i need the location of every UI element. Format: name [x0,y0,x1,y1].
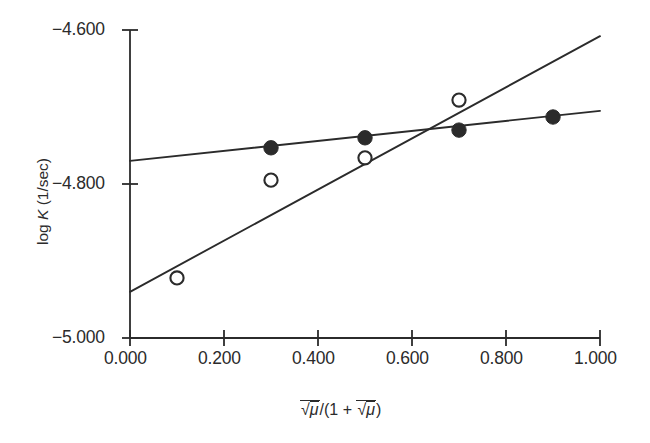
data-point-filled [546,110,560,124]
x-tick-label: 0.000 [104,348,147,369]
data-point-open [452,93,465,106]
radical-group-1: √μ [300,400,320,419]
y-tick-label: −4.800 [52,173,105,194]
x-tick-label: 0.600 [386,348,429,369]
data-point-open [358,151,371,164]
radical-icon: √ [357,401,366,418]
data-point-filled [264,141,278,155]
radical-icon: √ [301,401,310,418]
data-point-filled [358,131,372,145]
mu-bar-1: μ [310,401,319,418]
x-tick-label: 0.800 [480,348,523,369]
y-tick-label: −5.000 [52,327,105,348]
data-point-open [170,271,183,284]
y-axis-title-pre: log [34,220,51,245]
x-tick-label: 0.200 [198,348,241,369]
x-axis-title: √μ/(1 + √μ) [300,400,381,419]
x-tick-label: 0.400 [292,348,335,369]
y-axis-title: log K (1/sec) [34,158,52,245]
x-axis-title-close: ) [376,401,381,418]
mu-bar-2: μ [366,401,375,418]
x-axis-title-open: /(1 + [320,401,357,418]
data-point-open [264,174,277,187]
data-point-filled [452,123,466,137]
plot-canvas [0,0,650,443]
y-axis-title-symbol: K [34,210,51,220]
y-axis-title-post: (1/sec) [34,158,51,210]
chart-figure: −4.600 −4.800 −5.000 0.000 0.200 0.400 0… [0,0,650,443]
y-tick-label: −4.600 [52,19,105,40]
x-tick-label: 1.000 [574,348,617,369]
radical-group-2: √μ [356,400,376,419]
